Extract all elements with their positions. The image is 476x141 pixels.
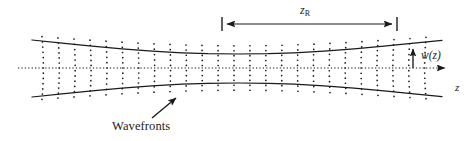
propagation-axis-label: z xyxy=(455,82,459,93)
wavefront-dot xyxy=(106,78,108,80)
wavefront-dot xyxy=(361,41,363,43)
wavefront-dot xyxy=(424,72,426,74)
wavefront-dot xyxy=(58,62,60,64)
wavefront-dot xyxy=(409,38,411,40)
wavefront-dot xyxy=(297,65,299,67)
wavefront-dot xyxy=(281,70,283,72)
wavefront-dot xyxy=(42,51,44,53)
wavefront-dot xyxy=(201,55,203,57)
wavefront-dot xyxy=(58,87,60,89)
wavefront-dot xyxy=(186,65,188,67)
wavefront-dot xyxy=(328,70,330,72)
wavefront-dot xyxy=(408,86,410,88)
wavefront-dot xyxy=(58,47,60,49)
wavefront-dot xyxy=(393,96,395,98)
wavefront-dot xyxy=(217,80,219,82)
wavefront-dot xyxy=(424,67,426,69)
wavefront-dot xyxy=(58,57,60,59)
wavefront-dot xyxy=(106,56,108,58)
wavefront-dot xyxy=(217,85,219,87)
wavefront-dot xyxy=(185,85,187,87)
wavefront-dot xyxy=(313,91,315,93)
wavefront-dot xyxy=(265,55,267,57)
wavefront-dot xyxy=(169,49,171,51)
wavefront-dot xyxy=(170,75,172,77)
wavefront-dot xyxy=(90,75,92,77)
wavefront-dot xyxy=(344,62,346,64)
wavefront-dot xyxy=(344,57,346,59)
wavefront-dot xyxy=(43,62,45,64)
gaussian-beam-figure: zR w(z) z Wavefronts xyxy=(0,0,476,141)
wavefront-dot xyxy=(345,82,347,84)
wavefront-dot xyxy=(281,65,283,67)
wavefront-dot xyxy=(265,70,267,72)
wavefront-dot xyxy=(408,59,410,61)
lower-envelope xyxy=(32,83,442,97)
wavefront-dot xyxy=(376,75,378,77)
wavefront-dot xyxy=(121,93,123,95)
wavefront-dot xyxy=(297,90,299,92)
wavefront-dot xyxy=(90,55,92,57)
wavefront-dot xyxy=(281,80,283,82)
wavefront-dot xyxy=(376,80,378,82)
wavefront-dot xyxy=(281,44,283,46)
wavefront-dot xyxy=(297,80,299,82)
wavefront-dot xyxy=(233,89,235,91)
wavefront-dot xyxy=(233,84,235,86)
wavefront-dot xyxy=(217,65,219,67)
wavefront-dot xyxy=(361,93,363,95)
wavefront-dot xyxy=(281,75,283,77)
wavefront-dot xyxy=(297,75,299,77)
wavefront-dot xyxy=(297,49,299,51)
wavefront-dot xyxy=(105,40,107,42)
wavefront-dot xyxy=(329,54,331,56)
wavefront-dot xyxy=(170,54,172,56)
wavefronts-label: Wavefronts xyxy=(112,120,170,133)
wavefront-dot xyxy=(185,44,187,46)
wavefront-dot xyxy=(121,41,123,43)
wavefront-dot xyxy=(313,70,315,72)
wavefront-dot xyxy=(281,90,283,92)
wavefront-dot xyxy=(217,89,219,91)
wavefront-dot xyxy=(90,80,92,82)
wavefront-dot xyxy=(361,83,363,85)
wavefront-dot xyxy=(408,81,410,83)
wavefront-dot xyxy=(106,51,108,53)
wavefront-dot xyxy=(89,39,91,41)
wavefront-dot xyxy=(201,65,203,67)
wavefront-dot xyxy=(201,90,203,92)
wavefront-dot xyxy=(313,54,315,56)
wavefront-dot xyxy=(281,60,283,62)
wavefront-dot xyxy=(137,47,139,49)
wavefront-dot xyxy=(424,88,426,90)
wavefront-dot xyxy=(106,73,108,75)
wavefront-dot xyxy=(392,80,394,82)
wavefront-dot xyxy=(74,49,76,51)
wavefront-dot xyxy=(249,70,251,72)
wavefront-dot xyxy=(313,80,315,82)
wavefront-dot xyxy=(57,37,59,39)
wavefront-dot xyxy=(377,50,379,52)
wavefront-dot xyxy=(249,55,251,57)
wavefront-dot xyxy=(424,83,426,85)
wavefront-dot xyxy=(138,62,140,64)
wavefront-dot xyxy=(153,43,155,45)
wavefront-dot xyxy=(122,62,124,64)
wavefront-dot xyxy=(74,86,76,88)
wavefront-dot xyxy=(361,51,363,53)
wavefront-dot xyxy=(360,78,362,80)
wavefront-dot xyxy=(345,93,347,95)
wavefront-dot xyxy=(425,98,427,100)
wavefront-dot xyxy=(106,83,108,85)
wavefront-dot xyxy=(217,55,219,57)
wavefront-dot xyxy=(42,57,44,59)
wavefront-dot xyxy=(201,60,203,62)
wavefront-dot xyxy=(154,75,156,77)
wavefront-dot xyxy=(169,85,171,87)
wavefront-dot xyxy=(265,45,267,47)
wavefront-dot xyxy=(105,94,107,96)
wavefront-dot xyxy=(360,62,362,64)
wavefront-dot xyxy=(201,70,203,72)
wavefront-dot xyxy=(170,65,172,67)
wavefront-dot xyxy=(328,64,330,66)
